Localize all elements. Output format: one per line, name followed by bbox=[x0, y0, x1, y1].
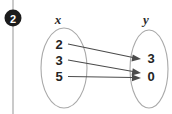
domain-element-1: 3 bbox=[55, 53, 62, 68]
mapping-diagram-figure: 2 x y 2 3 5 3 0 bbox=[0, 0, 172, 114]
mapping-diagram-canvas: 2 x y 2 3 5 3 0 bbox=[0, 0, 172, 114]
domain-oval bbox=[41, 28, 87, 108]
range-set-label: y bbox=[141, 12, 149, 27]
range-element-1: 0 bbox=[147, 69, 154, 84]
domain-element-2: 5 bbox=[55, 69, 62, 84]
question-number-label: 2 bbox=[10, 13, 16, 25]
domain-element-0: 2 bbox=[55, 37, 62, 52]
domain-set-label: x bbox=[54, 12, 62, 27]
range-element-0: 3 bbox=[147, 51, 154, 66]
